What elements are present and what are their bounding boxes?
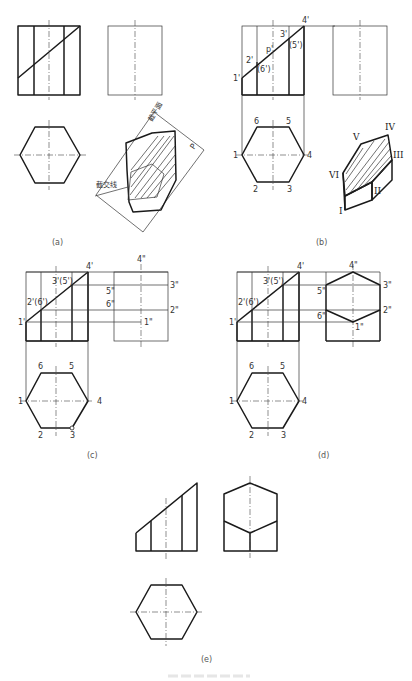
label-1-prime: 1' — [229, 318, 236, 327]
panel-a-isometric: 截交线 截平面 P — [95, 100, 204, 232]
label-p-prime: p' — [266, 45, 273, 54]
caption-e: (e) — [201, 655, 212, 664]
caption-d: (d) — [318, 451, 329, 460]
label-6: 6 — [38, 362, 43, 371]
label-1-prime: 1' — [233, 74, 240, 83]
panel-d: 1' 2'(6') 3'(5') 4' 4" 3" 5" 6" 2" 1" — [229, 261, 392, 460]
panel-a-front-view — [18, 20, 80, 100]
label-5: 5 — [69, 362, 74, 371]
panel-d-side-view: 4" 3" 5" 6" 2" 1" — [317, 261, 392, 349]
panel-b-top-view: 1 2 3 4 5 6 — [233, 117, 312, 194]
panel-b: 1' 2' p' 3' 4' (6') (5') 1 2 3 4 5 6 — [233, 16, 404, 247]
label-3-prime: 3' — [280, 30, 287, 39]
label-2-prime: 2' — [246, 56, 253, 65]
label-II: II — [374, 186, 382, 196]
label-6-dprime: 6" — [317, 312, 326, 321]
label-2-dprime: 2" — [170, 306, 179, 315]
panel-e-side-view — [224, 476, 277, 558]
panel-e-top-view — [130, 578, 203, 646]
label-3: 3 — [287, 185, 292, 194]
panel-b-side-view — [333, 20, 387, 100]
label-3: 3 — [281, 431, 286, 440]
label-5-dprime: 5" — [317, 287, 326, 296]
label-VI: VI — [328, 170, 339, 180]
label-5-prime: (5') — [289, 41, 303, 50]
figure-canvas: 截交线 截平面 P (a) 1' 2' p' 3' 4' (6') (5') — [0, 0, 412, 681]
label-2: 2 — [249, 431, 254, 440]
label-4: 4 — [97, 397, 102, 406]
label-6-prime: (6') — [257, 65, 271, 74]
panel-b-front-view: 1' 2' p' 3' 4' (6') (5') — [233, 16, 335, 100]
caption-b: (b) — [316, 238, 327, 247]
panel-e-front-view — [136, 483, 197, 560]
label-1-dprime: 1" — [144, 318, 153, 327]
label-cutting-plane: 截平面 — [146, 100, 164, 123]
label-4-prime: 4' — [297, 262, 304, 271]
label-6: 6 — [254, 117, 259, 126]
panel-e: (e) — [130, 476, 277, 664]
panel-d-top-view: 1 2 3 4 5 6 — [229, 362, 307, 440]
caption-c: (c) — [87, 451, 98, 460]
label-5: 5 — [286, 117, 291, 126]
label-4: 4 — [307, 151, 312, 160]
label-4: 4 — [302, 397, 307, 406]
label-2: 2 — [253, 185, 258, 194]
panel-c-front-view: 1' 2'(6') 3'(5') 4' — [18, 262, 168, 347]
label-1-dprime: 1" — [355, 323, 364, 332]
panel-c-projection-lines — [26, 341, 88, 401]
label-2-6-prime: 2'(6') — [27, 298, 48, 307]
label-2: 2 — [38, 431, 43, 440]
label-3: 3 — [70, 431, 75, 440]
panel-a-side-view — [108, 20, 162, 100]
hatching — [130, 136, 175, 198]
label-plane-p: P — [188, 142, 198, 151]
label-4-dprime: 4" — [349, 261, 358, 270]
label-III: III — [393, 150, 404, 160]
panel-a-top-view — [14, 120, 86, 190]
label-IV: IV — [385, 122, 396, 132]
panel-c: 1' 2'(6') 3'(5') 4' 4" 3" 5" 6" 2" 1" 1 … — [18, 255, 179, 460]
label-V: V — [352, 132, 360, 142]
label-4-dprime: 4" — [137, 255, 146, 264]
label-1: 1 — [233, 151, 238, 160]
label-4-prime: 4' — [302, 16, 309, 25]
label-3-5-prime: 3'(5') — [52, 277, 73, 286]
label-3-dprime: 3" — [383, 281, 392, 290]
label-4-prime: 4' — [86, 262, 93, 271]
label-2-dprime: 2" — [383, 306, 392, 315]
label-I: I — [339, 206, 343, 216]
label-3-5-prime: 3'(5') — [263, 277, 284, 286]
caption-a: (a) — [52, 238, 63, 247]
label-1: 1 — [18, 397, 23, 406]
panel-c-top-view: 1 2 3 4 5 6 — [18, 362, 102, 440]
label-5-dprime: 5" — [106, 287, 115, 296]
label-1-prime: 1' — [18, 318, 25, 327]
label-6-dprime: 6" — [106, 300, 115, 309]
label-6: 6 — [249, 362, 254, 371]
label-intersection-line: 截交线 — [96, 180, 117, 189]
label-5: 5 — [280, 362, 285, 371]
label-2-6-prime: 2'(6') — [238, 298, 259, 307]
point-3-marker — [70, 426, 74, 430]
panel-a: 截交线 截平面 P (a) — [14, 20, 204, 247]
panel-b-isometric: I II III IV V VI — [328, 122, 404, 216]
label-1: 1 — [229, 397, 234, 406]
panel-c-side-view: 4" 3" 5" 6" 2" 1" — [106, 255, 179, 349]
label-3-dprime: 3" — [170, 281, 179, 290]
